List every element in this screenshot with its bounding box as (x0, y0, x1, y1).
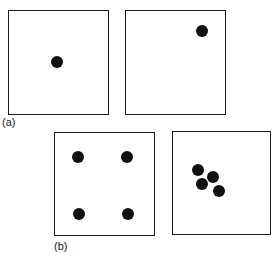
dot (207, 171, 219, 183)
dot (196, 25, 208, 37)
dot (122, 208, 134, 220)
panel-label-b: (b) (54, 240, 67, 252)
dot (121, 151, 133, 163)
panel-label-a: (a) (2, 116, 15, 128)
dot (73, 208, 85, 220)
dot (192, 164, 204, 176)
dot (196, 178, 208, 190)
dot (72, 151, 84, 163)
panel-b-box-1 (54, 132, 155, 236)
dot (213, 185, 225, 197)
panel-b-box-2 (172, 131, 271, 235)
panel-a-box-2 (125, 10, 226, 115)
dot (51, 56, 63, 68)
